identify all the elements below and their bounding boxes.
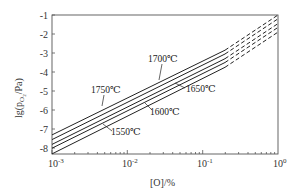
plot-frame: [52, 15, 278, 154]
y-tick-labels: -1 -2 -3 -4 -5 -6 -7 -8: [40, 10, 48, 154]
series-lines: [52, 15, 278, 154]
y-tick-label: -2: [40, 29, 48, 40]
label-1550: 1550℃: [111, 127, 141, 137]
x-tick-label: 100: [273, 157, 287, 169]
y-tick-label: -1: [40, 10, 48, 21]
y-tick-label: -7: [40, 124, 48, 135]
label-1750: 1750℃: [91, 85, 121, 95]
label-1700: 1700℃: [148, 54, 178, 64]
x-axis-title: [O]/%: [150, 177, 175, 188]
label-1650: 1650℃: [186, 84, 216, 94]
x-tick-label: 10-2: [122, 157, 138, 169]
y-tick-label: -5: [40, 86, 48, 97]
x-tick-label: 10-3: [48, 157, 64, 169]
x-tick-label: 10-1: [197, 157, 213, 169]
label-1600: 1600℃: [150, 107, 180, 117]
chart: -1 -2 -3 -4 -5 -6 -7 -8: [0, 0, 300, 192]
y-tick-label: -3: [40, 48, 48, 59]
x-tick-labels: 10-3 10-2 10-1 100: [48, 157, 287, 169]
y-tick-label: -6: [40, 105, 48, 116]
y-axis-title: lg(pO2/Pa): [13, 78, 27, 118]
x-axis: [52, 150, 275, 154]
line-1550: [52, 67, 225, 154]
y-tick-label: -8: [40, 143, 48, 154]
y-tick-label: -4: [40, 67, 48, 78]
